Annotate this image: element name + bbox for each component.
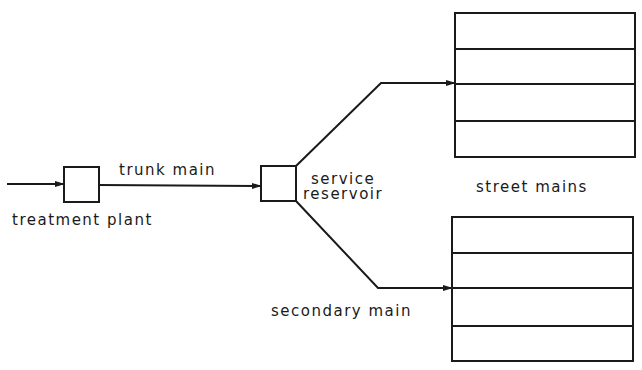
trunk-main-arrow <box>99 185 261 186</box>
street-mains-lower <box>452 217 633 361</box>
upper-branch-line <box>296 83 455 166</box>
secondary-main-label: secondary main <box>271 303 412 319</box>
reservoir-label: reservoir <box>303 186 383 202</box>
trunk-main-label: trunk main <box>119 162 216 178</box>
treatment-plant-box <box>64 167 99 202</box>
street-mains-upper <box>455 13 635 157</box>
street-mains-label: street mains <box>476 179 588 195</box>
treatment-plant-label: treatment plant <box>12 212 153 228</box>
service-reservoir-box <box>261 166 296 201</box>
secondary-main-line <box>296 201 452 288</box>
